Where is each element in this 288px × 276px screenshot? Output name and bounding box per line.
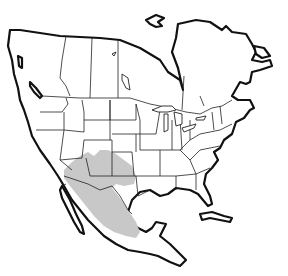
haida-gwaii [18,56,22,68]
arctic-island [146,15,164,27]
range-map [0,0,288,276]
lake-michigan [164,114,168,132]
cuba [200,212,232,222]
newfoundland [254,46,270,58]
